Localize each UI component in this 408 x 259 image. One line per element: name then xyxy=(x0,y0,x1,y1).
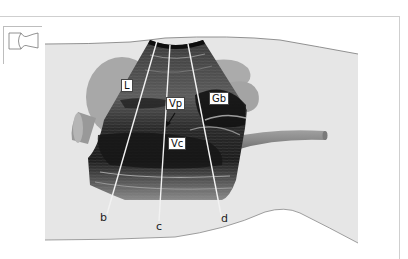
ultrasound-diagram xyxy=(0,0,408,259)
label-scan-line-b: b xyxy=(100,212,107,224)
label-scan-line-c: c xyxy=(156,221,162,233)
label-liver: L xyxy=(121,79,133,92)
label-portal-vein: Vp xyxy=(166,97,185,110)
label-gallbladder: Gb xyxy=(209,92,229,105)
label-scan-line-d: d xyxy=(221,213,228,225)
label-vena-cava: Vc xyxy=(168,137,186,150)
body-orientation-icon xyxy=(9,33,38,49)
